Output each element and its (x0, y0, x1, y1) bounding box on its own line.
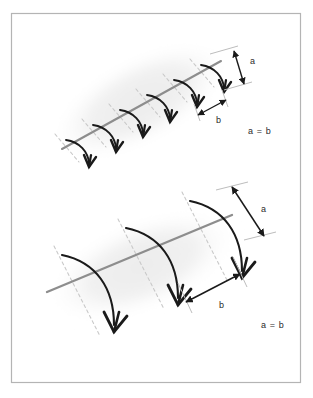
figure-root: a b a = b (0, 0, 313, 398)
label-a: a (261, 204, 266, 214)
diagram-canvas: a b a = b (0, 0, 313, 398)
label-b: b (216, 115, 221, 125)
relation-a-equals-b: a = b (248, 126, 271, 136)
label-a: a (250, 56, 255, 66)
relation-a-equals-b: a = b (261, 320, 284, 330)
label-b: b (219, 300, 224, 310)
